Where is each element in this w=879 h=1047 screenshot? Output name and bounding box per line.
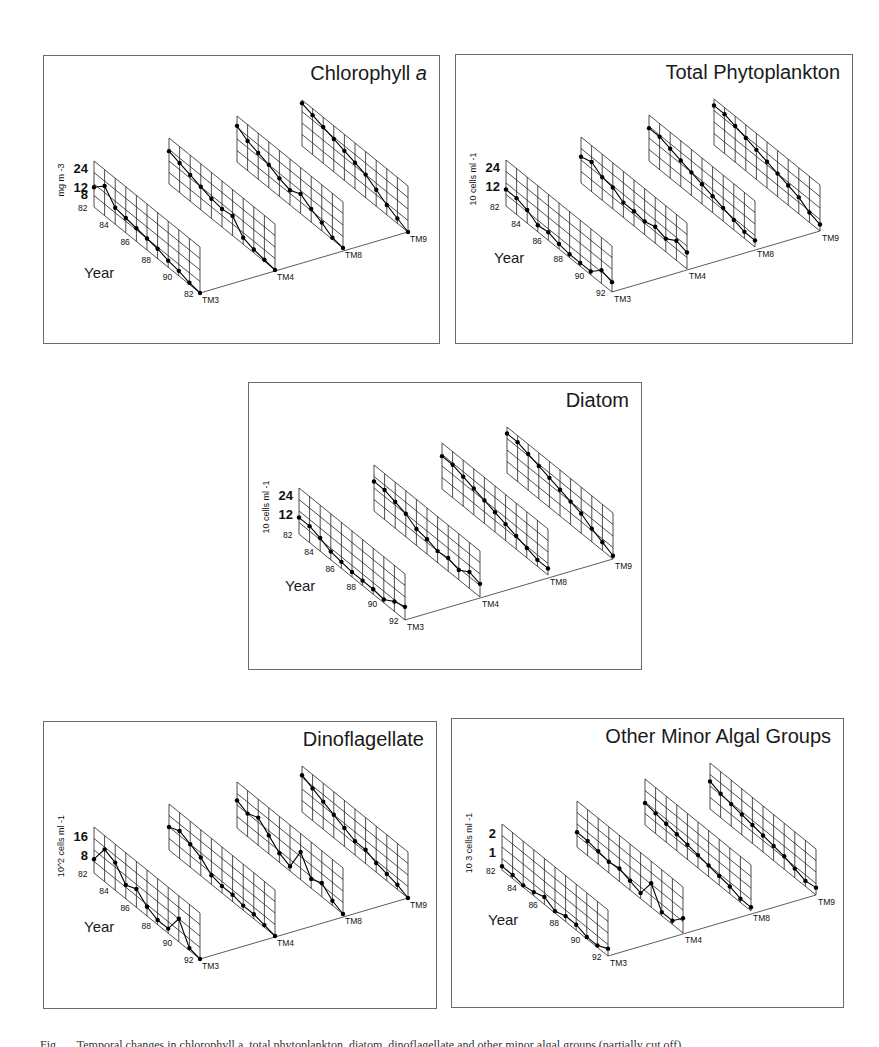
fence-tm9 — [300, 766, 410, 900]
station-label: TM4 — [482, 599, 499, 609]
station-label: TM8 — [753, 913, 770, 923]
panel-other-minor-algal-groups: Other Minor Algal GroupsYearTM3TM4TM8TM9… — [451, 718, 844, 1008]
y-tick-label: 12 — [279, 507, 293, 522]
year-tick-label: 92 — [596, 288, 606, 298]
fence-tm9 — [708, 763, 818, 895]
y-tick-label: 12 — [74, 180, 88, 195]
year-tick-label: 84 — [511, 219, 521, 229]
year-tick-label: 86 — [325, 564, 335, 574]
year-tick-label: 88 — [142, 921, 152, 931]
y-axis-unit-label: mg m -3 — [56, 163, 66, 196]
station-label: TM4 — [277, 272, 294, 282]
year-tick-label: 82 — [486, 866, 496, 876]
year-tick-label: 84 — [507, 883, 517, 893]
panel-chlorophyll: Chlorophyll aYearTM3TM4TM8TM982848688908… — [43, 55, 440, 344]
station-label: TM9 — [410, 900, 427, 910]
year-tick-label: 86 — [120, 903, 130, 913]
year-tick-label: 82 — [78, 203, 88, 213]
fence-plot: TM3TM4TM8TM982848688908281224mg m -3 — [44, 56, 441, 345]
station-label: TM4 — [685, 935, 702, 945]
year-tick-label: 92 — [184, 955, 194, 965]
year-tick-label: 90 — [575, 271, 585, 281]
year-tick-label: 86 — [528, 900, 538, 910]
year-tick-label: 88 — [142, 255, 152, 265]
fence-tm9 — [505, 427, 615, 559]
y-tick-label: 24 — [279, 488, 294, 503]
y-tick-label: 24 — [486, 160, 501, 175]
year-tick-label: 88 — [550, 918, 560, 928]
y-tick-label: 8 — [81, 848, 88, 863]
fence-tm8 — [235, 782, 345, 916]
y-axis-unit-label: 10 cells ml -1 — [261, 480, 271, 533]
year-tick-label: 86 — [532, 236, 542, 246]
year-tick-label: 82 — [184, 289, 194, 299]
year-tick-label: 82 — [78, 869, 88, 879]
year-tick-label: 90 — [571, 935, 581, 945]
station-label: TM9 — [822, 233, 839, 243]
station-label: TM9 — [410, 234, 427, 244]
year-tick-label: 90 — [163, 272, 173, 282]
station-label: TM8 — [757, 249, 774, 259]
panel-diatom: DiatomYearTM3TM4TM8TM9828486889092122410… — [248, 382, 642, 670]
year-tick-label: 84 — [99, 886, 109, 896]
station-label: TM8 — [345, 250, 362, 260]
fence-plot: TM3TM4TM8TM982848688909281610^2 cells ml… — [44, 722, 438, 1010]
station-label: TM9 — [615, 561, 632, 571]
y-tick-label: 12 — [486, 179, 500, 194]
year-tick-label: 90 — [163, 938, 173, 948]
fence-tm9 — [712, 99, 822, 231]
year-tick-label: 82 — [490, 202, 500, 212]
y-tick-label: 1 — [489, 845, 496, 860]
station-label: TM3 — [202, 295, 219, 305]
figure-caption: Fig. … Temporal changes in chlorophyll a… — [40, 1038, 840, 1047]
year-tick-label: 86 — [120, 237, 130, 247]
panel-total-phytoplankton: Total PhytoplanktonYearTM3TM4TM8TM982848… — [455, 54, 853, 344]
y-axis-unit-label: 10 3 cells ml -1 — [464, 813, 474, 874]
station-label: TM3 — [202, 961, 219, 971]
year-tick-label: 82 — [283, 530, 293, 540]
year-tick-label: 92 — [592, 952, 602, 962]
station-label: TM8 — [345, 916, 362, 926]
station-label: TM4 — [689, 271, 706, 281]
fence-tm9 — [300, 100, 410, 234]
panel-dinoflagellate: DinoflagellateYearTM3TM4TM8TM98284868890… — [43, 721, 437, 1009]
year-tick-label: 88 — [347, 582, 357, 592]
fence-plot: TM3TM4TM8TM9828486889092122410 cells ml … — [249, 383, 643, 671]
fence-plot: TM3TM4TM8TM98284868890921210 3 cells ml … — [452, 719, 845, 1009]
station-label: TM8 — [550, 577, 567, 587]
year-tick-label: 92 — [389, 616, 399, 626]
year-tick-label: 84 — [304, 547, 314, 557]
y-tick-label: 16 — [74, 829, 88, 844]
y-tick-label: 2 — [489, 826, 496, 841]
year-tick-label: 90 — [368, 599, 378, 609]
y-tick-label: 24 — [74, 161, 89, 176]
fence-tm8 — [235, 116, 345, 250]
y-axis-unit-label: 10 cells ml -1 — [468, 152, 478, 205]
station-label: TM9 — [818, 897, 835, 907]
station-label: TM3 — [610, 958, 627, 968]
year-tick-label: 84 — [99, 220, 109, 230]
station-label: TM4 — [277, 938, 294, 948]
y-axis-unit-label: 10^2 cells ml -1 — [56, 815, 66, 877]
station-label: TM3 — [407, 622, 424, 632]
year-tick-label: 88 — [554, 254, 564, 264]
fence-plot: TM3TM4TM8TM9828486889092122410 cells ml … — [456, 55, 854, 345]
station-label: TM3 — [614, 294, 631, 304]
